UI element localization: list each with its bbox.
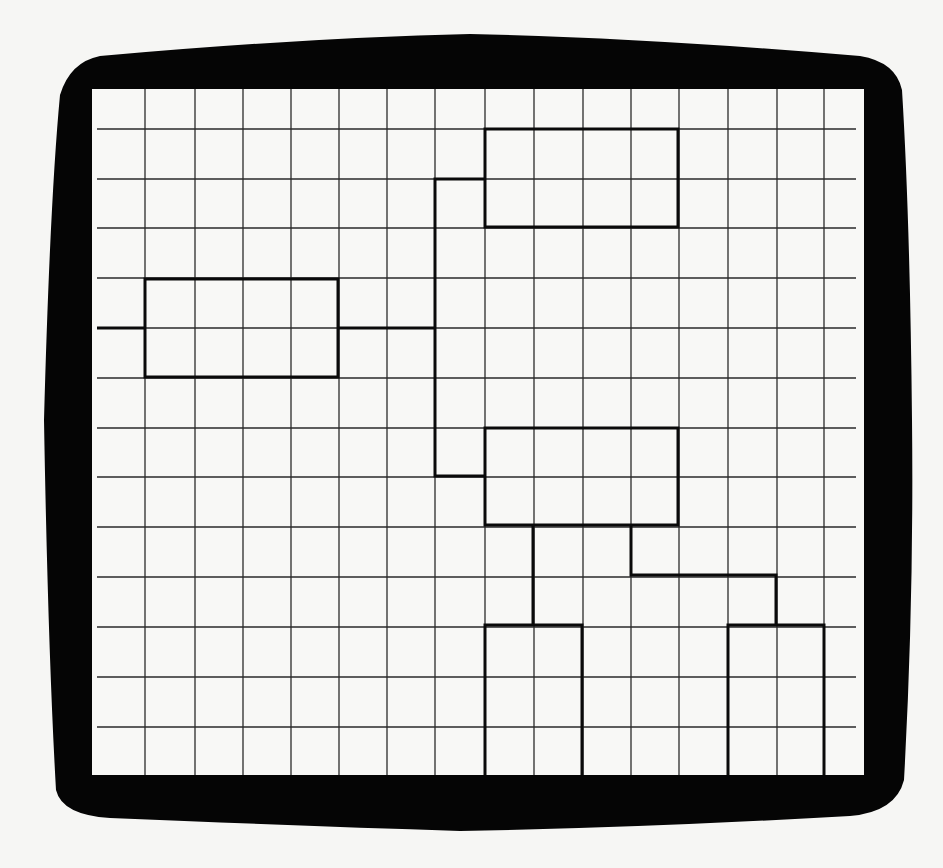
display-screen	[92, 89, 864, 775]
diagram-figure: Hierarchical block diagram on a grid dis…	[0, 0, 943, 868]
